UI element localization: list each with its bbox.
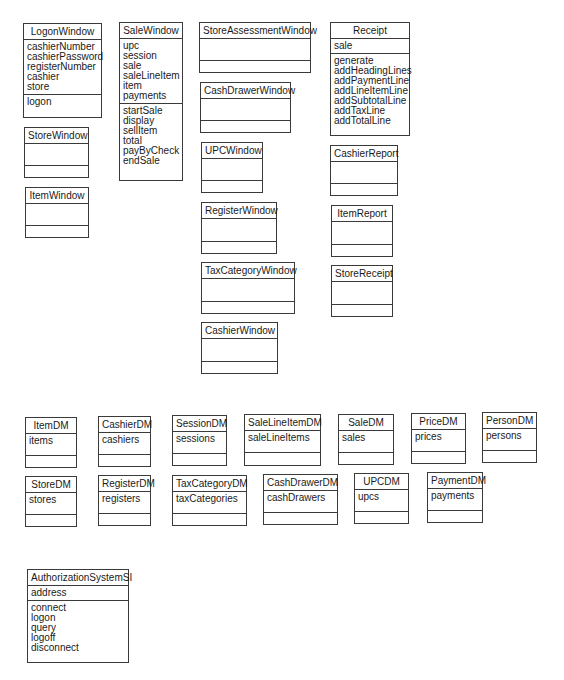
- operations-section: [173, 514, 246, 525]
- class-name: SaleDM: [339, 415, 393, 431]
- class-name: PersonDM: [483, 413, 536, 429]
- class-box-store-window: StoreWindow: [24, 127, 89, 178]
- attributes-section: [331, 162, 397, 184]
- attributes-section: registers: [99, 492, 150, 514]
- class-name: AuthorizationSystemSI: [28, 570, 128, 586]
- attributes-section: cashiers: [99, 433, 150, 455]
- attributes-section: taxCategories: [173, 492, 246, 514]
- attributes-section: saleLineItems: [245, 431, 320, 453]
- operation: logon: [27, 97, 98, 107]
- class-box-item-report: ItemReport: [331, 205, 393, 257]
- attributes-section: [202, 219, 276, 242]
- attributes-section: prices: [412, 430, 465, 452]
- attributes-section: items: [26, 434, 76, 456]
- attributes-section: stores: [26, 493, 76, 515]
- operations-section: connectlogonquerylogoffdisconnect: [28, 601, 128, 662]
- attribute: payments: [431, 491, 479, 501]
- class-box-item-window: ItemWindow: [25, 187, 89, 238]
- attribute: saleLineItems: [248, 433, 317, 443]
- operations-section: [339, 453, 393, 464]
- class-name: ItemReport: [332, 206, 392, 222]
- attributes-section: persons: [483, 429, 536, 451]
- class-box-session-dm: SessionDMsessions: [172, 415, 227, 466]
- operations-section: [26, 226, 88, 237]
- operations-section: [200, 61, 310, 72]
- attributes-section: [25, 144, 88, 166]
- operations-section: logon: [24, 95, 101, 117]
- class-name: CashierDM: [99, 417, 150, 433]
- class-name: StoreDM: [26, 477, 76, 493]
- attribute: registers: [102, 494, 147, 504]
- operations-section: startSaledisplaysellItemtotalpayByChecke…: [120, 104, 182, 180]
- class-box-sale-line-item-dm: SaleLineItemDMsaleLineItems: [244, 414, 321, 466]
- operations-section: generateaddHeadingLinesaddPaymentLineadd…: [331, 54, 409, 135]
- class-box-store-receipt: StoreReceipt: [331, 265, 393, 317]
- operations-section: [332, 305, 392, 316]
- class-box-register-window: RegisterWindow: [201, 202, 277, 254]
- operations-section: [202, 181, 262, 192]
- operations-section: [99, 455, 150, 466]
- class-box-authorization-system-si: AuthorizationSystemSIaddressconnectlogon…: [27, 569, 129, 663]
- class-box-cashier-report: CashierReport: [330, 145, 398, 196]
- attribute: persons: [486, 431, 533, 441]
- attributes-section: sale: [331, 39, 409, 54]
- class-box-item-dm: ItemDMitems: [25, 417, 77, 468]
- attributes-section: upcsessionsalesaleLineItemitempayments: [120, 39, 182, 104]
- operation: addTotalLine: [334, 116, 406, 126]
- class-name: ItemDM: [26, 418, 76, 434]
- class-box-person-dm: PersonDMpersons: [482, 412, 537, 463]
- operations-section: [331, 184, 397, 195]
- class-box-cashier-window: CashierWindow: [201, 322, 278, 374]
- attribute: cashiers: [102, 435, 147, 445]
- class-name: CashierWindow: [202, 323, 277, 339]
- class-box-sale-dm: SaleDMsales: [338, 414, 394, 465]
- operations-section: [202, 242, 276, 253]
- class-box-store-dm: StoreDMstores: [25, 476, 77, 527]
- operation: endSale: [123, 156, 179, 166]
- class-box-receipt: ReceiptsalegenerateaddHeadingLinesaddPay…: [330, 22, 410, 136]
- class-box-cashier-dm: CashierDMcashiers: [98, 416, 151, 467]
- attribute: cashDrawers: [267, 493, 334, 503]
- class-name: ItemWindow: [26, 188, 88, 204]
- attributes-section: [332, 282, 392, 305]
- class-box-upc-dm: UPCDMupcs: [354, 473, 409, 524]
- class-box-store-assessment-window: StoreAssessmentWindow: [199, 22, 311, 73]
- attributes-section: upcs: [355, 490, 408, 512]
- attributes-section: [26, 204, 88, 226]
- operations-section: [332, 245, 392, 256]
- class-name: Receipt: [331, 23, 409, 39]
- class-name: TaxCategoryWindow: [202, 263, 294, 279]
- attribute: payments: [123, 91, 179, 101]
- class-name: SessionDM: [173, 416, 226, 432]
- attribute: taxCategories: [176, 494, 243, 504]
- operations-section: [99, 514, 150, 525]
- class-name: LogonWindow: [24, 24, 101, 40]
- class-name: PriceDM: [412, 414, 465, 430]
- class-name: SaleWindow: [120, 23, 182, 39]
- class-box-price-dm: PriceDMprices: [411, 413, 466, 464]
- class-box-logon-window: LogonWindowcashierNumbercashierPasswordr…: [23, 23, 102, 118]
- attribute: address: [31, 588, 125, 598]
- operations-section: [173, 454, 226, 465]
- operations-section: [355, 512, 408, 523]
- class-box-sale-window: SaleWindowupcsessionsalesaleLineItemitem…: [119, 22, 183, 181]
- class-name: PaymentDM: [428, 473, 482, 489]
- operations-section: [412, 452, 465, 463]
- class-name: RegisterDM: [99, 476, 150, 492]
- operations-section: [264, 513, 337, 524]
- class-name: CashDrawerWindow: [201, 83, 290, 99]
- attribute: stores: [29, 495, 73, 505]
- class-name: UPCWindow: [202, 143, 262, 159]
- class-name: UPCDM: [355, 474, 408, 490]
- operations-section: [483, 451, 536, 462]
- class-box-cash-drawer-dm: CashDrawerDMcashDrawers: [263, 474, 338, 525]
- attributes-section: payments: [428, 489, 482, 511]
- attributes-section: [332, 222, 392, 245]
- attribute: store: [27, 82, 98, 92]
- operations-section: [202, 302, 294, 313]
- operations-section: [428, 511, 482, 522]
- attributes-section: sessions: [173, 432, 226, 454]
- attribute: sessions: [176, 434, 223, 444]
- class-name: CashDrawerDM: [264, 475, 337, 491]
- attributes-section: [202, 339, 277, 362]
